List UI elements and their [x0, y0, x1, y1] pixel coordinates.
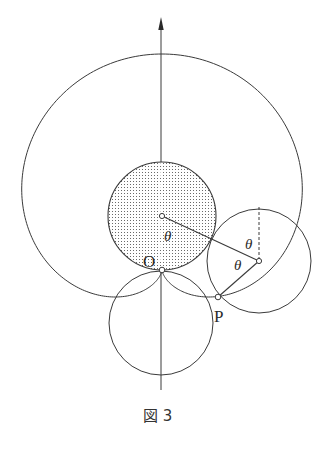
rolling-center-point	[256, 258, 261, 263]
p-label: P	[214, 307, 223, 326]
origin-label: O	[143, 252, 155, 271]
theta-label-upper: θ	[245, 236, 253, 252]
cardioid-diagram: O P θ θ θ 図 3	[0, 0, 328, 450]
fixed-center-point	[159, 213, 164, 218]
theta-label-lower: θ	[234, 257, 242, 273]
theta-label-fixed: θ	[164, 228, 172, 244]
p-point	[215, 294, 221, 300]
axis-arrow-icon	[158, 17, 163, 30]
origin-point	[159, 267, 165, 273]
figure-caption: 図 3	[143, 407, 172, 425]
